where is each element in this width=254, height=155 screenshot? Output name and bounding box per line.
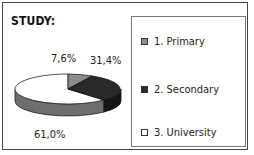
legend-swatch-primary: [141, 38, 148, 45]
legend-label: 2. Secondary: [154, 83, 219, 96]
legend-label: 1. Primary: [154, 35, 205, 48]
legend-item-secondary: 2. Secondary: [141, 83, 219, 96]
label-secondary: 31,4%: [90, 54, 121, 67]
legend-item-university: 3. University: [141, 126, 217, 139]
label-university: 61,0%: [34, 128, 65, 141]
legend-swatch-secondary: [141, 86, 148, 93]
legend: 1. Primary 2. Secondary 3. University: [131, 16, 246, 147]
legend-item-primary: 1. Primary: [141, 35, 205, 48]
legend-swatch-university: [141, 129, 148, 136]
legend-label: 3. University: [154, 126, 217, 139]
label-primary: 7,6%: [51, 52, 76, 65]
